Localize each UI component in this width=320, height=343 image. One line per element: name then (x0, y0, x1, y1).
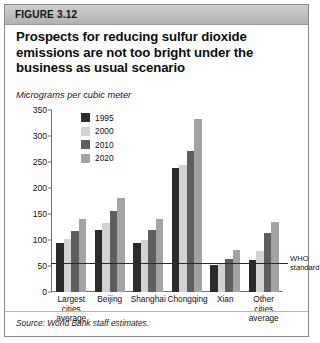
bar (187, 151, 195, 292)
figure-header-bar: FIGURE 3.12 (5, 5, 308, 25)
bar (117, 198, 125, 292)
figure-number: FIGURE 3.12 (15, 9, 77, 20)
legend-swatch-icon (81, 140, 90, 149)
x-axis-category-labels: Largest cities averageBeijingShanghaiCho… (52, 293, 283, 339)
x-axis-label: Other cities average (245, 295, 284, 324)
bar (210, 265, 218, 292)
legend-item: 2000 (81, 125, 141, 139)
bar-group (172, 110, 202, 292)
y-tick-mark-250 (48, 162, 52, 163)
bar (79, 219, 87, 292)
x-axis-label: Chongqing (168, 295, 207, 305)
bar (56, 243, 64, 292)
bar (172, 168, 180, 292)
x-axis-label: Xian (206, 295, 245, 305)
bar (179, 165, 187, 292)
legend-swatch-icon (81, 113, 90, 122)
bar (110, 211, 118, 292)
y-tick-mark-300 (48, 136, 52, 137)
x-axis-label: Beijing (91, 295, 130, 305)
bar (71, 231, 79, 292)
y-tick-label-0: 0 (15, 287, 47, 297)
y-tick-label-150: 150 (15, 209, 47, 219)
x-axis-label: Shanghai (129, 295, 168, 305)
y-tick-mark-150 (48, 214, 52, 215)
chart-subtitle: Micrograms per cubic meter (16, 90, 131, 100)
y-tick-label-250: 250 (15, 157, 47, 167)
y-tick-mark-100 (48, 240, 52, 241)
y-tick-label-100: 100 (15, 235, 47, 245)
bar (156, 219, 164, 292)
legend-label: 1995 (95, 113, 114, 123)
y-tick-mark-50 (48, 266, 52, 267)
legend-item: 2010 (81, 138, 141, 152)
bar-group (249, 110, 279, 292)
bar-group (210, 110, 240, 292)
y-tick-mark-200 (48, 188, 52, 189)
bar (256, 251, 264, 292)
source-note: Source: World Bank staff estimates. (16, 318, 149, 328)
page-title: Prospects for reducing sulfur dioxide em… (16, 29, 304, 76)
bar (95, 230, 103, 292)
legend-item: 2020 (81, 152, 141, 166)
y-tick-mark-0 (48, 292, 52, 293)
y-tick-label-350: 350 (15, 105, 47, 115)
chart-legend: 1995200020102020 (81, 111, 141, 165)
bar (271, 222, 279, 292)
who-standard-label: WHO standard (290, 254, 315, 272)
y-tick-label-300: 300 (15, 131, 47, 141)
legend-item: 1995 (81, 111, 141, 125)
y-tick-mark-350 (48, 110, 52, 111)
bar (64, 239, 72, 292)
legend-label: 2010 (95, 140, 114, 150)
y-tick-label-50: 50 (15, 261, 47, 271)
bar (102, 223, 110, 292)
y-tick-label-200: 200 (15, 183, 47, 193)
bar (141, 240, 149, 292)
bar (148, 230, 156, 292)
bar (233, 250, 241, 292)
bar (194, 119, 202, 292)
legend-label: 2000 (95, 126, 114, 136)
legend-swatch-icon (81, 154, 90, 163)
bar (218, 264, 226, 292)
bar (249, 260, 257, 292)
figure-card: FIGURE 3.12 Prospects for reducing sulfu… (4, 4, 309, 337)
legend-label: 2020 (95, 153, 114, 163)
who-standard-line (51, 263, 288, 264)
chart-plot-area: 050100150200250300350 WHO standard 19952… (5, 100, 310, 300)
legend-swatch-icon (81, 127, 90, 136)
bar (133, 243, 141, 292)
y-axis-tick-labels: 050100150200250300350 (15, 100, 47, 292)
source-divider (5, 311, 308, 312)
